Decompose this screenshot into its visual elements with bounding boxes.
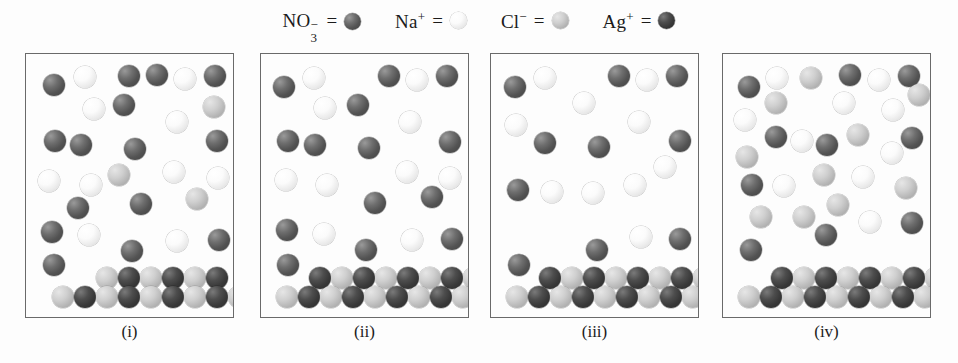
ion-no3 xyxy=(669,130,691,152)
legend-formula-sodium: Na+ xyxy=(395,9,425,33)
ion-no3 xyxy=(347,94,369,116)
precipitate-ion-cl xyxy=(506,286,528,308)
ion-na xyxy=(628,111,650,133)
ion-no3 xyxy=(276,219,298,241)
precipitate-ion-ag xyxy=(342,286,364,308)
precipitate-ion-cl xyxy=(140,286,162,308)
precipitate-ion-ag xyxy=(660,286,682,308)
ion-na xyxy=(399,111,421,133)
legend-item-sodium: Na+= xyxy=(395,9,467,33)
ion-na xyxy=(773,175,795,197)
panel-caption-4: (iv) xyxy=(722,322,931,342)
legend-equals-sign: = xyxy=(641,10,652,32)
ion-no3 xyxy=(304,134,326,156)
ion-cl xyxy=(813,164,835,186)
ion-na xyxy=(636,69,658,91)
ion-no3 xyxy=(608,65,630,87)
precipitate-ion-cl xyxy=(870,286,892,308)
legend-equals-sign: = xyxy=(534,10,545,32)
ion-na xyxy=(303,67,325,89)
ion-na xyxy=(313,223,335,245)
ion-no3 xyxy=(901,127,923,149)
ion-no3 xyxy=(358,137,380,159)
ion-cl xyxy=(800,67,822,89)
ion-na xyxy=(166,230,188,252)
legend-sphere-nitrate xyxy=(344,13,361,30)
ion-na xyxy=(505,114,527,136)
ion-na xyxy=(38,170,60,192)
legend-sphere-chloride xyxy=(552,12,569,29)
legend-equals-sign: = xyxy=(432,10,443,32)
ion-no3 xyxy=(421,186,443,208)
ion-na xyxy=(80,174,102,196)
ion-no3 xyxy=(669,228,691,250)
ion-na xyxy=(573,92,595,114)
precipitate-ion-cl xyxy=(914,286,931,308)
ion-na xyxy=(534,67,556,89)
precipitate-ion-cl xyxy=(364,286,386,308)
legend: NO−3=Na+=Cl−=Ag+= xyxy=(0,4,958,38)
legend-item-silver: Ag+= xyxy=(603,9,676,33)
precipitate-ion-cl xyxy=(826,286,848,308)
precipitate-ion-ag xyxy=(760,286,782,308)
particle-panel-4 xyxy=(722,53,931,318)
particle-panel-2 xyxy=(260,53,469,318)
precipitate-ion-cl xyxy=(320,286,342,308)
ion-no3 xyxy=(44,130,66,152)
precipitate-ion-ag xyxy=(848,286,870,308)
ion-na xyxy=(174,68,196,90)
ion-no3 xyxy=(666,65,688,87)
ion-no3 xyxy=(355,239,377,261)
ion-no3 xyxy=(815,224,837,246)
ion-no3 xyxy=(277,130,299,152)
ion-na xyxy=(882,99,904,121)
ion-na xyxy=(74,66,96,88)
ion-no3 xyxy=(130,193,152,215)
ion-no3 xyxy=(67,197,89,219)
ion-no3 xyxy=(765,126,787,148)
precipitate-ion-cl xyxy=(638,286,660,308)
ion-cl xyxy=(908,84,930,106)
ion-no3 xyxy=(124,138,146,160)
ion-no3 xyxy=(508,254,530,276)
precipitate-ion-cl xyxy=(408,286,430,308)
precipitate-ion-cl xyxy=(682,286,699,308)
particle-panel-3 xyxy=(490,53,699,318)
ion-no3 xyxy=(839,64,861,86)
legend-sphere-silver xyxy=(658,12,675,29)
ion-na xyxy=(439,167,461,189)
legend-formula-silver: Ag+ xyxy=(603,9,634,33)
ion-na xyxy=(316,174,338,196)
ion-cl xyxy=(793,206,815,228)
ion-no3 xyxy=(436,65,458,87)
legend-item-nitrate: NO−3= xyxy=(283,10,362,32)
ion-cl xyxy=(203,96,225,118)
ion-no3 xyxy=(588,136,610,158)
precipitate-ion-cl xyxy=(96,286,118,308)
ion-no3 xyxy=(738,76,760,98)
ion-no3 xyxy=(364,192,386,214)
ion-na xyxy=(852,166,874,188)
ion-na xyxy=(78,224,100,246)
ion-no3 xyxy=(204,65,226,87)
ion-na xyxy=(833,92,855,114)
ion-na xyxy=(207,167,229,189)
ion-no3 xyxy=(586,239,608,261)
ion-no3 xyxy=(507,179,529,201)
ion-no3 xyxy=(121,240,143,262)
precipitate-ion-ag xyxy=(162,286,184,308)
precipitate-ion-ag xyxy=(804,286,826,308)
ion-cl xyxy=(827,194,849,216)
ion-na xyxy=(83,98,105,120)
ion-na xyxy=(406,69,428,91)
precipitate-ion-ag xyxy=(528,286,550,308)
precipitate-ion-ag xyxy=(298,286,320,308)
precipitate-ion-cl xyxy=(550,286,572,308)
ion-cl xyxy=(186,188,208,210)
ion-cl xyxy=(736,146,758,168)
ion-na xyxy=(166,111,188,133)
panel-caption-2: (ii) xyxy=(260,322,469,342)
legend-formula-chloride: Cl− xyxy=(501,9,527,33)
ion-na xyxy=(881,142,903,164)
ion-no3 xyxy=(118,65,140,87)
